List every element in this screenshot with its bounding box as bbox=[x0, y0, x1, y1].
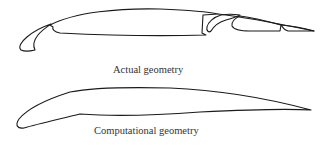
computational-geometry-label: Computational geometry bbox=[94, 125, 199, 136]
actual-geometry-label: Actual geometry bbox=[113, 64, 183, 75]
slat bbox=[20, 24, 51, 51]
main-element bbox=[50, 9, 218, 36]
actual-geometry-airfoil bbox=[20, 9, 314, 51]
computational-geometry-airfoil bbox=[17, 88, 311, 129]
flap-2 bbox=[232, 16, 281, 31]
simplified-airfoil bbox=[17, 88, 311, 129]
